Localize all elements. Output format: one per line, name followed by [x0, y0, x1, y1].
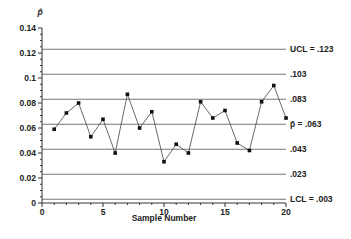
series-line	[54, 86, 286, 162]
data-point	[272, 84, 276, 88]
reference-line-label: .083	[290, 94, 307, 104]
x-tick-label: 15	[220, 207, 230, 217]
control-chart: UCL = .123.103.083p̄ = .063.043.023LCL =…	[0, 0, 351, 239]
y-tick-label: 0.12	[19, 48, 36, 58]
data-point	[113, 151, 117, 155]
y-tick-label: 0.06	[19, 123, 36, 133]
data-point	[138, 126, 142, 130]
y-tick-label: 0.1	[24, 73, 36, 83]
x-tick-label: 20	[281, 207, 291, 217]
reference-line-label: .023	[290, 169, 307, 179]
x-tick-label: 5	[101, 207, 106, 217]
data-point	[77, 101, 81, 105]
reference-line-label: .043	[290, 144, 307, 154]
reference-line-label: .103	[290, 69, 307, 79]
data-point	[284, 116, 288, 120]
reference-line-label: UCL = .123	[290, 44, 334, 54]
data-series	[52, 84, 287, 164]
data-point	[52, 127, 56, 131]
reference-line-label: p̄ = .063	[290, 119, 322, 129]
data-point	[199, 100, 203, 104]
axes: 00.020.040.060.080.10.120.1405101520	[19, 23, 291, 217]
data-point	[211, 116, 215, 120]
data-point	[150, 110, 154, 114]
y-tick-label: 0.04	[19, 148, 36, 158]
y-tick-label: 0	[31, 198, 36, 208]
data-point	[260, 100, 264, 104]
data-point	[235, 141, 239, 145]
data-point	[65, 111, 69, 115]
y-tick-label: 0.02	[19, 173, 36, 183]
reference-lines: UCL = .123.103.083p̄ = .063.043.023LCL =…	[42, 44, 334, 204]
reference-line-label: LCL = .003	[290, 194, 333, 204]
y-axis-title: p̂	[36, 7, 42, 17]
data-point	[248, 149, 252, 153]
data-point	[223, 109, 227, 113]
data-point	[174, 142, 178, 146]
x-tick-label: 0	[40, 207, 45, 217]
data-point	[162, 160, 166, 164]
y-tick-label: 0.08	[19, 98, 36, 108]
data-point	[126, 92, 130, 96]
data-point	[89, 135, 93, 139]
data-point	[101, 117, 105, 121]
x-axis-title: Sample Number	[132, 213, 197, 223]
y-tick-label: 0.14	[19, 23, 36, 33]
data-point	[187, 151, 191, 155]
